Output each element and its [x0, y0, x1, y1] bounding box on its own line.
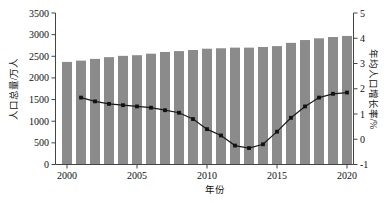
growth-marker — [205, 127, 209, 131]
growth-marker — [345, 91, 349, 95]
bar-2002 — [90, 59, 100, 165]
left-tick-label: 0 — [44, 159, 49, 170]
growth-marker — [331, 92, 335, 96]
growth-marker — [289, 116, 293, 120]
bar-2018 — [314, 38, 324, 164]
bar-2001 — [76, 61, 86, 165]
growth-marker — [317, 96, 321, 100]
growth-marker — [107, 102, 111, 106]
x-tick-label: 2015 — [267, 170, 287, 181]
right-tick-label: 1 — [360, 109, 365, 120]
x-tick-label: 2010 — [197, 170, 217, 181]
left-tick-label: 3000 — [29, 29, 49, 40]
left-tick-label: 1500 — [29, 94, 49, 105]
x-axis-title: 年份 — [185, 184, 245, 198]
growth-marker — [149, 106, 153, 110]
bar-2005 — [132, 55, 142, 164]
growth-marker — [303, 105, 307, 109]
x-tick-label: 2000 — [57, 170, 77, 181]
left-tick-label: 500 — [34, 137, 49, 148]
right-axis-title: 年均人口增长率/% — [367, 41, 379, 137]
left-tick-label: 1000 — [29, 116, 49, 127]
bar-2020 — [342, 36, 352, 165]
right-tick-label: 3 — [360, 58, 365, 69]
bar-2015 — [272, 46, 282, 164]
bar-2016 — [286, 43, 296, 165]
figure: 0500100015002000250030003500-10123452000… — [0, 0, 387, 203]
growth-marker — [121, 103, 125, 107]
growth-marker — [275, 130, 279, 134]
growth-marker — [135, 105, 139, 109]
x-tick-label: 2020 — [337, 170, 357, 181]
x-tick-label: 2005 — [127, 170, 147, 181]
population-growth-chart: 0500100015002000250030003500-10123452000… — [0, 0, 387, 203]
bar-2010 — [202, 49, 212, 165]
right-tick-label: 4 — [360, 33, 365, 44]
growth-marker — [177, 111, 181, 115]
growth-marker — [79, 96, 83, 100]
bar-2004 — [118, 56, 128, 165]
growth-marker — [247, 146, 251, 150]
left-tick-label: 2500 — [29, 51, 49, 62]
right-tick-label: -1 — [360, 159, 368, 170]
bar-2014 — [258, 47, 268, 165]
bar-2019 — [328, 37, 338, 164]
growth-marker — [163, 108, 167, 112]
right-tick-label: 2 — [360, 83, 365, 94]
left-tick-label: 3500 — [29, 8, 49, 19]
bar-2000 — [62, 62, 72, 165]
growth-marker — [233, 144, 237, 148]
bar-2007 — [160, 52, 170, 165]
bar-2011 — [216, 48, 226, 164]
growth-marker — [93, 99, 97, 103]
bar-2008 — [174, 51, 184, 164]
growth-marker — [219, 134, 223, 138]
left-axis-title: 人口总量/万人 — [8, 44, 20, 134]
bar-2009 — [188, 50, 198, 164]
growth-marker — [261, 142, 265, 146]
growth-marker — [191, 117, 195, 121]
bar-2003 — [104, 57, 114, 164]
right-tick-label: 5 — [360, 8, 365, 19]
left-tick-label: 2000 — [29, 72, 49, 83]
right-tick-label: 0 — [360, 134, 365, 145]
bar-2017 — [300, 40, 310, 164]
